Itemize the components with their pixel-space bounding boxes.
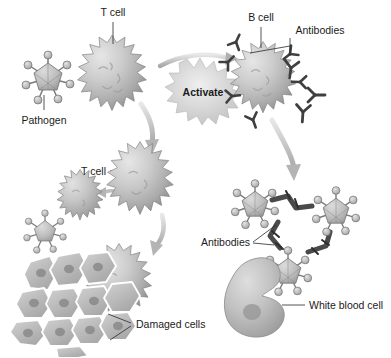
t-cell-top-label: T cell [101, 6, 126, 18]
t-cell-mid [57, 169, 103, 220]
damaged-cells-label: Damaged cells [136, 318, 205, 330]
arrow-to-damaged [150, 215, 164, 256]
t-cell-mid-label: T cell [81, 165, 106, 177]
wbc-nucleus [243, 304, 261, 320]
pathogen-mid [24, 210, 67, 253]
white-blood-cell [224, 258, 284, 337]
white-blood-cell-label: White blood cell [309, 299, 383, 311]
t-cell-top [78, 35, 147, 110]
antibodies-bottom-label: Antibodies [201, 236, 250, 248]
b-cell-label: B cell [248, 11, 274, 23]
t-cell-activated [107, 142, 174, 215]
antibodies-top-label: Antibodies [295, 24, 344, 36]
immune-response-diagram: Activate Pathogen [0, 0, 391, 358]
diagram-canvas: Activate Pathogen [0, 0, 391, 358]
arrow-bcell-down [272, 120, 301, 181]
activate-label: Activate [183, 86, 224, 98]
pathogen-label: Pathogen [22, 114, 67, 126]
pathogen-top [22, 51, 74, 104]
b-cell [230, 42, 295, 113]
